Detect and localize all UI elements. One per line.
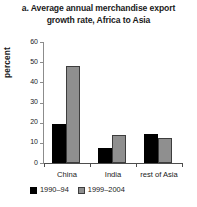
x-axis-tick	[44, 163, 45, 167]
legend-swatch-icon	[78, 187, 85, 194]
chart-title-line-1: a. Average annual merchandise export	[6, 3, 191, 15]
x-axis-tick	[182, 163, 183, 167]
x-axis-tick	[90, 163, 91, 167]
legend-item[interactable]: 1999–2004	[78, 186, 125, 194]
legend-swatch-icon	[30, 187, 37, 194]
y-axis-tick-label: 30	[18, 98, 38, 106]
y-axis-tick: 30	[40, 103, 44, 104]
y-axis-tick-label: 10	[18, 138, 38, 146]
y-axis-tick-label: 50	[18, 58, 38, 66]
legend-label: 1990–94	[40, 186, 69, 194]
plot-area: 0102030405060 ChinaIndiarest of Asia	[44, 42, 182, 163]
x-axis-category-label: China	[57, 170, 77, 179]
bar-china-1999-2004	[66, 66, 80, 163]
figure-panel: a. Average annual merchandise export gro…	[0, 0, 197, 207]
y-axis-tick-label: 60	[18, 38, 38, 46]
y-axis-label: percent	[2, 47, 12, 78]
legend-label: 1999–2004	[88, 186, 125, 194]
legend-item[interactable]: 1990–94	[30, 186, 69, 194]
x-axis-tick	[136, 163, 137, 167]
bar-india-1999-2004	[112, 135, 126, 163]
y-axis-tick: 60	[40, 42, 44, 43]
x-axis-category-label: India	[105, 170, 121, 179]
y-axis-tick-label: 0	[18, 159, 38, 167]
bar-china-1990-94	[52, 124, 66, 163]
bar-india-1990-94	[98, 148, 112, 163]
chart-legend: 1990–941999–2004	[30, 186, 125, 194]
x-axis-category-label: rest of Asia	[140, 170, 178, 179]
y-axis-tick: 40	[40, 82, 44, 83]
y-axis-tick: 20	[40, 123, 44, 124]
bar-rest-of-asia-1999-2004	[158, 138, 172, 163]
y-axis-tick-label: 40	[18, 78, 38, 86]
chart-title-line-2: growth rate, Africa to Asia	[6, 15, 191, 27]
y-axis-tick-label: 20	[18, 118, 38, 126]
chart-title: a. Average annual merchandise export gro…	[6, 3, 191, 26]
x-axis-line	[43, 163, 182, 164]
y-axis-tick: 10	[40, 143, 44, 144]
bar-rest-of-asia-1990-94	[144, 134, 158, 163]
y-axis-tick: 50	[40, 62, 44, 63]
